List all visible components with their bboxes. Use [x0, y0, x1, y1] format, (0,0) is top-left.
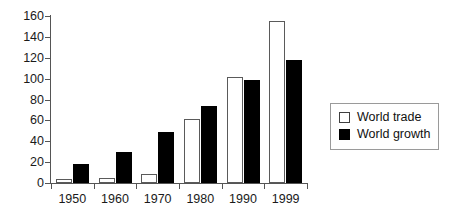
- bar-1970-world-growth: [158, 132, 174, 183]
- legend-label-world-trade: World trade: [357, 111, 421, 124]
- x-axis-tick: [307, 184, 308, 189]
- plot-area: [51, 16, 307, 183]
- y-axis-tick: [45, 37, 50, 38]
- bar-1960-world-trade: [99, 178, 115, 183]
- bar-1950-world-trade: [56, 179, 72, 183]
- y-axis-tick-label: 140: [2, 31, 44, 43]
- y-axis-tick: [45, 16, 50, 17]
- y-axis-tick-labels: 020406080100120140160: [0, 0, 44, 218]
- y-axis-tick-label: 160: [2, 10, 44, 22]
- x-axis-tick-label-1990: 1990: [222, 192, 265, 206]
- bar-chart: 020406080100120140160 195019601970198019…: [0, 0, 449, 218]
- chart-legend: World trade World growth: [330, 103, 439, 150]
- bar-1970-world-trade: [141, 174, 157, 183]
- x-axis-tick: [51, 184, 52, 189]
- legend-item-world-trade: World trade: [339, 109, 430, 126]
- legend-item-world-growth: World growth: [339, 126, 430, 143]
- bar-1990-world-growth: [244, 80, 260, 183]
- bar-1990-world-trade: [227, 77, 243, 183]
- x-axis-tick-label-1980: 1980: [179, 192, 222, 206]
- x-axis-tick-label-1970: 1970: [136, 192, 179, 206]
- y-axis-tick: [45, 58, 50, 59]
- bar-1999-world-growth: [286, 60, 302, 183]
- legend-swatch-world-growth: [339, 129, 350, 140]
- x-axis-tick: [264, 184, 265, 189]
- y-axis-tick: [45, 120, 50, 121]
- bar-1980-world-growth: [201, 106, 217, 183]
- bar-1980-world-trade: [184, 119, 200, 183]
- x-axis-tick: [179, 184, 180, 189]
- y-axis-tick: [45, 183, 50, 184]
- y-axis-tick-label: 100: [2, 73, 44, 85]
- x-axis-tick-label-1960: 1960: [94, 192, 137, 206]
- y-axis-tick: [45, 100, 50, 101]
- y-axis-tick-label: 20: [2, 156, 44, 168]
- legend-swatch-world-trade: [339, 112, 350, 123]
- bar-1960-world-growth: [116, 152, 132, 183]
- y-axis-tick: [45, 162, 50, 163]
- x-axis-tick-label-1950: 1950: [51, 192, 94, 206]
- legend-label-world-growth: World growth: [357, 128, 430, 141]
- y-axis-tick-label: 0: [2, 177, 44, 189]
- y-axis-tick-label: 60: [2, 114, 44, 126]
- bar-1999-world-trade: [269, 21, 285, 183]
- x-axis-tick: [222, 184, 223, 189]
- x-axis-tick: [136, 184, 137, 189]
- bar-1950-world-growth: [73, 164, 89, 183]
- x-axis-tick-label-1999: 1999: [264, 192, 307, 206]
- y-axis-tick-label: 120: [2, 52, 44, 64]
- y-axis-tick-label: 40: [2, 135, 44, 147]
- y-axis-tick-label: 80: [2, 94, 44, 106]
- x-axis-tick: [94, 184, 95, 189]
- y-axis-tick: [45, 141, 50, 142]
- y-axis-tick: [45, 79, 50, 80]
